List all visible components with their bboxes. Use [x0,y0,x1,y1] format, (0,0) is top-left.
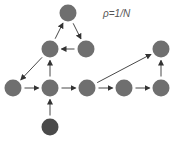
node-top [60,5,77,22]
edge-arrow [73,23,81,38]
edge-arrow [97,54,151,82]
graph-diagram [0,0,175,143]
node-r0 [5,80,22,97]
nodes [5,5,170,136]
node-mid_right [78,41,95,58]
probability-label: ρ=1/N [103,8,130,19]
node-r1 [42,80,59,97]
node-right_top [153,41,170,58]
node-bottom [42,119,59,136]
node-r3 [116,80,133,97]
node-r4 [153,80,170,97]
edge-arrow [55,23,63,38]
edges [21,23,161,115]
edge-arrow [21,57,42,79]
node-r2 [79,80,96,97]
node-mid_left [42,41,59,58]
